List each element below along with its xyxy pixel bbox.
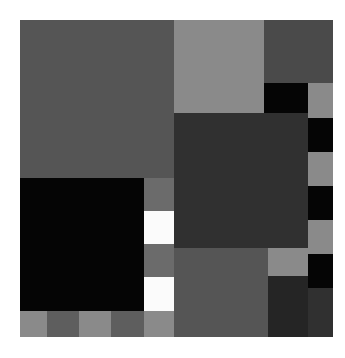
checker-gray-1 [144, 178, 174, 211]
mosaic-surface [20, 20, 333, 337]
right-light-square-a [308, 152, 333, 186]
right-black-square-c [308, 254, 333, 288]
checker-gray-2 [144, 244, 174, 277]
checker-white-2 [144, 277, 174, 311]
top-left-large-block [20, 20, 174, 178]
right-black-square-b [308, 186, 333, 220]
top-far-right-dark-strip [308, 20, 333, 83]
top-right-dark-block [264, 20, 308, 83]
bottom-right-light-square [268, 248, 308, 276]
center-dark-large-block [174, 113, 308, 248]
upper-far-right-light-square [308, 83, 333, 118]
top-center-light-block [174, 20, 264, 113]
right-light-square-b [308, 220, 333, 254]
bottom-right-near-black-block [268, 276, 308, 337]
bottom-row-cell-5 [144, 311, 174, 337]
left-black-large-block [20, 178, 144, 311]
right-black-square-a [308, 118, 333, 152]
bottom-row-cell-3 [79, 311, 111, 337]
bottom-row-cell-1 [20, 311, 47, 337]
bottom-row-cell-4 [111, 311, 144, 337]
mosaic-canvas [0, 0, 345, 358]
checker-white-1 [144, 211, 174, 244]
bottom-right-dark-block [308, 288, 333, 337]
bottom-row-cell-2 [47, 311, 79, 337]
